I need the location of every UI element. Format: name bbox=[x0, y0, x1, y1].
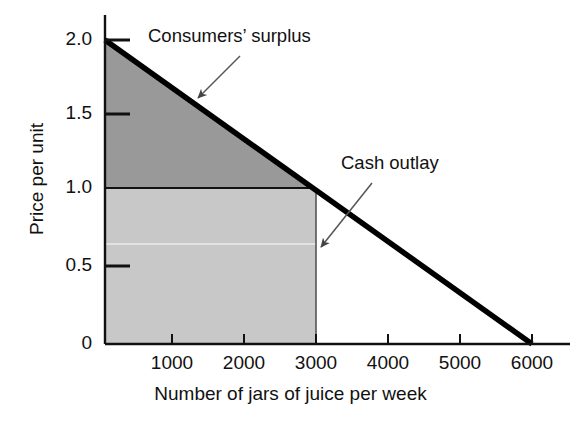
annotation-cash-outlay: Cash outlay bbox=[341, 152, 439, 174]
x-tick-label-2000: 2000 bbox=[204, 352, 284, 374]
x-tick-label-6000: 6000 bbox=[492, 352, 572, 374]
x-tick-label-1000: 1000 bbox=[132, 352, 212, 374]
consumers-surplus-leader bbox=[198, 56, 240, 98]
y-axis-title: Price per unit bbox=[26, 104, 48, 254]
cash-outlay-leader bbox=[321, 183, 372, 247]
y-tick-label-1.5: 1.5 bbox=[46, 102, 92, 124]
x-axis-title: Number of jars of juice per week bbox=[0, 383, 581, 405]
cash-outlay-scan-band bbox=[105, 243, 316, 245]
x-tick-label-4000: 4000 bbox=[348, 352, 428, 374]
y-tick-label-1.0: 1.0 bbox=[46, 176, 92, 198]
x-tick-label-5000: 5000 bbox=[420, 352, 500, 374]
y-tick-label-0: 0 bbox=[46, 332, 92, 354]
y-tick-label-2.0: 2.0 bbox=[46, 28, 92, 50]
y-tick-label-0.5: 0.5 bbox=[46, 254, 92, 276]
x-tick-label-3000: 3000 bbox=[276, 352, 356, 374]
cash-outlay-region bbox=[105, 188, 316, 344]
annotation-consumers-surplus: Consumers’ surplus bbox=[148, 25, 311, 47]
economics-chart: 2.0 1.5 1.0 0.5 0 1000 2000 3000 4000 50… bbox=[0, 0, 581, 435]
